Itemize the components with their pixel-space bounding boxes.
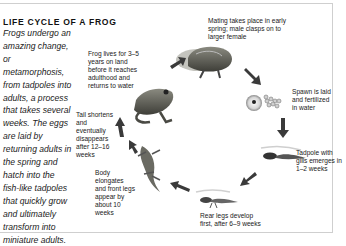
caption-adult: Frog lives for 3–5 years on land before … — [88, 50, 143, 90]
arrow-icon — [240, 172, 257, 186]
spawn-cluster-icon — [264, 95, 281, 108]
caption-tail: Tail shortens and eventually disappears … — [76, 111, 118, 158]
arrow-icon — [170, 181, 190, 192]
caption-tadpole: Tadpole with gills emerges in 1–2 weeks — [296, 149, 342, 173]
rear-legs-tadpole-icon — [196, 190, 238, 208]
mating-frogs-icon — [176, 47, 232, 78]
caption-spawn: Spawn is laid and fertilized in water — [292, 88, 336, 112]
arrow-icon — [244, 68, 261, 85]
caption-mating: Mating takes place in early spring; male… — [208, 17, 288, 41]
caption-front-legs: Body elongates and front legs appear by … — [95, 169, 135, 216]
single-egg-icon — [246, 95, 262, 111]
arrow-icon — [277, 118, 289, 138]
caption-rear-legs: Rear legs develop first, after 6–9 weeks — [200, 212, 266, 228]
froglet-icon — [138, 146, 160, 192]
arrow-icon — [129, 140, 138, 154]
adult-frog-icon — [134, 89, 173, 123]
